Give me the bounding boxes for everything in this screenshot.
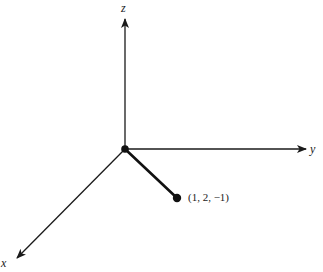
y-axis-label: y (310, 143, 315, 155)
position-vector (125, 149, 177, 198)
coordinate-diagram (0, 0, 323, 272)
point-label: (1, 2, −1) (188, 192, 229, 203)
point-dot (173, 194, 181, 202)
origin-dot (121, 145, 129, 153)
x-axis-label: x (1, 257, 6, 269)
z-axis-label: z (121, 2, 126, 14)
x-axis (17, 149, 125, 258)
